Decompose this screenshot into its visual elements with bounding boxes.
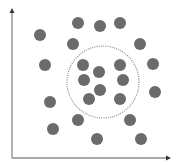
inside-point: [77, 59, 89, 71]
inside-point: [83, 93, 95, 105]
inside-point: [78, 74, 90, 86]
outside-point: [72, 17, 84, 29]
outside-point: [67, 38, 79, 50]
inside-point: [94, 84, 106, 96]
outside-point: [134, 38, 146, 50]
outside-point: [135, 133, 147, 145]
outside-point: [94, 20, 106, 32]
y-axis-arrow-icon: [10, 8, 15, 13]
cluster-diagram: [0, 0, 180, 165]
inside-point: [114, 59, 126, 71]
outside-points: [34, 17, 161, 145]
outside-point: [149, 86, 161, 98]
x-axis-arrow-icon: [166, 156, 171, 161]
inside-point: [93, 66, 105, 78]
diagram-canvas: [0, 0, 180, 165]
inside-point: [117, 74, 129, 86]
outside-point: [39, 59, 51, 71]
outside-point: [47, 123, 59, 135]
outside-point: [72, 114, 84, 126]
inside-cluster-points: [77, 59, 129, 105]
outside-point: [44, 96, 56, 108]
outside-point: [114, 17, 126, 29]
outside-point: [124, 114, 136, 126]
outside-point: [147, 58, 159, 70]
inside-point: [114, 93, 126, 105]
outside-point: [34, 29, 46, 41]
outside-point: [91, 133, 103, 145]
